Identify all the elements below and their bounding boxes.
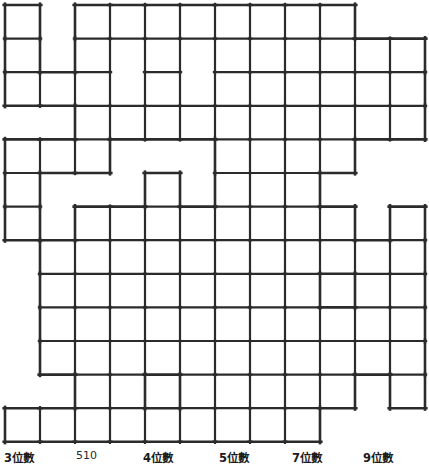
grid-cell[interactable] [285,240,320,274]
grid-cell[interactable] [285,106,320,140]
grid-cell[interactable] [145,307,180,341]
grid-cell[interactable] [145,72,180,106]
grid-cell[interactable] [75,207,110,241]
grid-cell[interactable] [390,240,425,274]
grid-cell[interactable] [110,5,145,39]
grid-cell[interactable] [285,5,320,39]
grid-cell[interactable] [215,106,250,140]
grid-cell[interactable] [215,307,250,341]
grid-cell[interactable] [75,5,110,39]
grid-cell[interactable] [355,72,390,106]
grid-cell[interactable] [110,72,145,106]
grid-cell[interactable] [5,207,40,241]
grid-cell[interactable] [75,375,110,409]
grid-cell[interactable] [390,307,425,341]
grid-cell[interactable] [75,39,110,73]
grid-cell[interactable] [180,72,215,106]
grid-cell[interactable] [5,139,40,173]
grid-cell[interactable] [390,39,425,73]
grid-cell[interactable] [110,408,145,442]
grid-cell[interactable] [110,39,145,73]
grid-cell[interactable] [355,274,390,308]
grid-cell[interactable] [40,307,75,341]
grid-cell[interactable] [215,240,250,274]
grid-cell[interactable] [5,39,40,73]
grid-cell[interactable] [320,139,355,173]
grid-cell[interactable] [215,375,250,409]
grid-cell[interactable] [215,5,250,39]
grid-cell[interactable] [285,139,320,173]
grid-cell[interactable] [40,240,75,274]
grid-cell[interactable] [250,72,285,106]
grid-cell[interactable] [75,72,110,106]
grid-cell[interactable] [250,341,285,375]
grid-cell[interactable] [145,173,180,207]
grid-cell[interactable] [285,375,320,409]
grid-cell[interactable] [250,375,285,409]
grid-cell[interactable] [250,240,285,274]
grid-cell[interactable] [320,39,355,73]
grid-cell[interactable] [390,106,425,140]
grid-cell[interactable] [250,207,285,241]
grid-cell[interactable] [5,408,40,442]
grid-cell[interactable] [250,139,285,173]
grid-cell[interactable] [285,274,320,308]
crossword-grid-svg[interactable] [0,0,429,446]
grid-cell[interactable] [250,106,285,140]
grid-cell[interactable] [145,240,180,274]
grid-cell[interactable] [5,5,40,39]
grid-cell[interactable] [355,240,390,274]
grid-cell[interactable] [40,274,75,308]
grid-cell[interactable] [145,106,180,140]
grid-cell[interactable] [250,307,285,341]
grid-cell[interactable] [75,341,110,375]
crossword-grid[interactable] [0,0,429,446]
grid-cell[interactable] [5,173,40,207]
grid-cell[interactable] [145,207,180,241]
grid-cell[interactable] [75,408,110,442]
grid-cell[interactable] [320,106,355,140]
grid-cell[interactable] [215,341,250,375]
grid-cell[interactable] [285,341,320,375]
grid-cell[interactable] [40,139,75,173]
grid-cell[interactable] [180,274,215,308]
grid-cell[interactable] [320,240,355,274]
grid-cell[interactable] [110,341,145,375]
grid-cell[interactable] [180,5,215,39]
grid-cell[interactable] [285,39,320,73]
grid-cell[interactable] [110,240,145,274]
grid-cell[interactable] [180,341,215,375]
grid-cell[interactable] [355,341,390,375]
grid-cell[interactable] [355,307,390,341]
grid-cell[interactable] [40,408,75,442]
grid-cell[interactable] [355,106,390,140]
grid-cell[interactable] [215,72,250,106]
grid-cell[interactable] [110,307,145,341]
grid-cell[interactable] [390,375,425,409]
grid-cell[interactable] [145,274,180,308]
grid-cell[interactable] [320,72,355,106]
grid-cell[interactable] [75,139,110,173]
grid-cell[interactable] [320,341,355,375]
grid-cell[interactable] [250,39,285,73]
grid-cell[interactable] [110,274,145,308]
grid-cell[interactable] [355,39,390,73]
grid-cell[interactable] [180,375,215,409]
grid-cell[interactable] [145,39,180,73]
grid-cell[interactable] [285,207,320,241]
grid-cell[interactable] [180,307,215,341]
grid-cell[interactable] [145,341,180,375]
grid-cell[interactable] [285,173,320,207]
grid-cell[interactable] [250,274,285,308]
grid-cell[interactable] [75,240,110,274]
grid-cell[interactable] [285,307,320,341]
grid-cell[interactable] [180,39,215,73]
grid-cell[interactable] [215,207,250,241]
grid-cell[interactable] [110,207,145,241]
grid-cell[interactable] [320,207,355,241]
grid-cell[interactable] [320,375,355,409]
grid-cell[interactable] [390,274,425,308]
grid-cell[interactable] [285,72,320,106]
grid-cell[interactable] [75,274,110,308]
grid-cell[interactable] [110,375,145,409]
